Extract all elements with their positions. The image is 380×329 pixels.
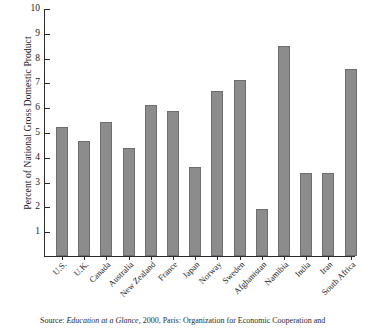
y-tick	[45, 207, 50, 208]
x-tick-label: France	[156, 260, 179, 283]
bar	[78, 141, 90, 256]
bar	[100, 122, 112, 256]
x-tick-label: Iran	[319, 260, 335, 276]
source-rest: 2000, Paris: Organization for Economic C…	[141, 316, 326, 325]
y-tick-label: 1	[35, 227, 40, 237]
y-tick	[45, 34, 50, 35]
y-axis-title: Percent of National Gross Domestic Produ…	[23, 3, 33, 243]
x-tick-label: Namibia	[263, 260, 290, 287]
bar	[167, 111, 179, 256]
bars-layer: U.S.U.K.CanadaAustraliaNew ZealandFrance…	[44, 9, 355, 256]
y-tick	[45, 108, 50, 109]
bar	[211, 91, 223, 256]
bar	[322, 173, 334, 256]
y-tick	[45, 183, 50, 184]
y-tick	[45, 232, 50, 233]
y-tick	[45, 9, 50, 10]
bar-chart-figure: Percent of National Gross Domestic Produ…	[0, 0, 380, 329]
y-tick-label: 6	[35, 103, 40, 113]
x-axis-line	[44, 256, 355, 257]
y-tick-label: 9	[35, 29, 40, 39]
source-prefix: Source:	[40, 316, 66, 325]
y-tick	[45, 133, 50, 134]
bar	[278, 46, 290, 256]
plot-area: U.S.U.K.CanadaAustraliaNew ZealandFrance…	[44, 9, 355, 257]
x-tick-label: India	[294, 260, 313, 279]
y-tick-label: 8	[35, 54, 40, 64]
bar	[189, 167, 201, 256]
bar	[234, 80, 246, 256]
y-tick-label: 4	[35, 153, 40, 163]
y-tick-label: 10	[31, 4, 41, 14]
y-tick-label: 7	[35, 79, 40, 89]
y-tick-label: 5	[35, 128, 40, 138]
bar	[345, 69, 357, 256]
y-tick	[45, 158, 50, 159]
x-tick-label: Norway	[198, 260, 224, 286]
x-tick-label: U.S.	[51, 260, 68, 277]
source-note: Source: Education at a Glance, 2000, Par…	[40, 316, 380, 325]
source-title: Education at a Glance,	[66, 316, 140, 325]
y-tick-label: 2	[35, 203, 40, 213]
y-tick	[45, 83, 50, 84]
bar	[145, 105, 157, 256]
y-tick	[45, 59, 50, 60]
bar	[300, 173, 312, 256]
bar	[256, 209, 268, 256]
bar	[123, 148, 135, 256]
bar	[56, 127, 68, 256]
y-tick-label: 3	[35, 178, 40, 188]
